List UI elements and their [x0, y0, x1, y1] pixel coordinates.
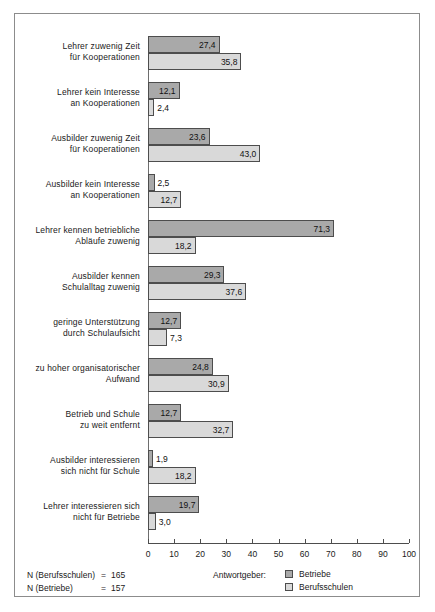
bar-value-label: 24,8	[189, 362, 209, 372]
bar-berufsschulen	[148, 329, 167, 346]
bar-berufsschulen	[148, 513, 156, 530]
category-label: Betrieb und Schule zu weit entfernt	[27, 409, 140, 431]
x-axis-tick-label: 60	[293, 549, 317, 559]
bar-value-label: 27,4	[196, 40, 216, 50]
legend-item: Berufsschulen	[285, 581, 353, 593]
x-axis-tick	[200, 539, 201, 543]
legend-item: Betriebe	[285, 568, 331, 580]
bar-value-label: 7,3	[170, 333, 182, 343]
x-axis-tick	[409, 539, 410, 543]
x-axis-tick-label: 80	[345, 549, 369, 559]
bar-betriebe	[148, 174, 155, 191]
x-axis-tick-label: 20	[188, 549, 212, 559]
category-label: Ausbilder interessieren sich nicht für S…	[27, 455, 140, 477]
category-label: Ausbilder zuwenig Zeit für Kooperationen	[27, 133, 140, 155]
note-label: N (Berufsschulen)	[27, 569, 101, 581]
x-axis-tick	[305, 539, 306, 543]
legend-swatch	[285, 570, 293, 578]
category-label: Lehrer kein Interesse an Kooperationen	[27, 87, 140, 109]
bar-betriebe	[148, 220, 334, 237]
bar-value-label: 2,5	[158, 178, 170, 188]
x-axis-tick-label: 100	[397, 549, 421, 559]
x-axis-tick	[148, 539, 149, 543]
bar-value-label: 30,9	[205, 379, 225, 389]
chart-figure: Lehrer zuwenig Zeit für Kooperationen27,…	[14, 13, 420, 597]
bar-value-label: 43,0	[236, 149, 256, 159]
legend: Antwortgeber:BetriebeBerufsschulen	[213, 568, 413, 594]
x-axis-tick-label: 70	[319, 549, 343, 559]
bar-berufsschulen	[148, 99, 154, 116]
legend-label: Berufsschulen	[299, 582, 353, 592]
x-axis-tick-label: 0	[136, 549, 160, 559]
bar-value-label: 12,7	[157, 316, 177, 326]
note-value: 157	[111, 583, 125, 593]
sample-size-note: N (Berufsschulen)=165	[27, 569, 125, 581]
bar-value-label: 35,8	[217, 57, 237, 67]
bar-value-label: 71,3	[310, 224, 330, 234]
category-label: Ausbilder kennen Schulalltag zuwenig	[27, 271, 140, 293]
x-axis-tick	[226, 539, 227, 543]
bar-value-label: 12,7	[157, 195, 177, 205]
bar-value-label: 32,7	[209, 425, 229, 435]
category-label: geringe Unterstützung durch Schulaufsich…	[27, 317, 140, 339]
bar-value-label: 19,7	[175, 500, 195, 510]
category-label: Ausbilder kein Interesse an Kooperatione…	[27, 179, 140, 201]
bar-value-label: 2,4	[157, 103, 169, 113]
x-axis-tick	[174, 539, 175, 543]
bar-value-label: 18,2	[172, 471, 192, 481]
category-label: zu hoher organisatorischer Aufwand	[27, 363, 140, 385]
note-equals: =	[101, 582, 111, 594]
x-axis-tick	[252, 539, 253, 543]
x-axis-tick-label: 50	[267, 549, 291, 559]
x-axis-tick	[331, 539, 332, 543]
x-axis-tick-label: 90	[371, 549, 395, 559]
legend-title: Antwortgeber:	[213, 569, 266, 581]
note-value: 165	[111, 570, 125, 580]
bar-value-label: 12,7	[157, 408, 177, 418]
note-label: N (Betriebe)	[27, 582, 101, 594]
x-axis-tick	[383, 539, 384, 543]
note-equals: =	[101, 569, 111, 581]
x-axis-line	[148, 543, 409, 544]
bar-value-label: 12,1	[156, 86, 176, 96]
category-label: Lehrer zuwenig Zeit für Kooperationen	[27, 41, 140, 63]
bar-value-label: 29,3	[200, 270, 220, 280]
x-axis-tick-label: 30	[214, 549, 238, 559]
x-axis-tick	[357, 539, 358, 543]
legend-label: Betriebe	[299, 569, 331, 579]
bar-value-label: 18,2	[172, 241, 192, 251]
bar-betriebe	[148, 450, 153, 467]
sample-size-note: N (Betriebe)=157	[27, 582, 125, 594]
bar-value-label: 1,9	[156, 454, 168, 464]
x-axis-tick-label: 40	[240, 549, 264, 559]
category-label: Lehrer interessieren sich nicht für Betr…	[27, 501, 140, 523]
x-axis-tick-label: 10	[162, 549, 186, 559]
plot-area: Lehrer zuwenig Zeit für Kooperationen27,…	[15, 14, 421, 598]
x-axis-tick	[279, 539, 280, 543]
bar-value-label: 23,6	[186, 132, 206, 142]
category-label: Lehrer kennen betriebliche Abläufe zuwen…	[27, 225, 140, 247]
bar-value-label: 37,6	[222, 287, 242, 297]
legend-swatch	[285, 583, 293, 591]
bar-value-label: 3,0	[159, 517, 171, 527]
